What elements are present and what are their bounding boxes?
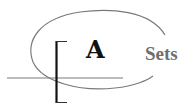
bracket-icon [56,41,67,103]
logo-word: Sets [145,44,178,63]
logo-letter: A [86,38,105,62]
a-sets-logo: A Sets [0,0,193,112]
